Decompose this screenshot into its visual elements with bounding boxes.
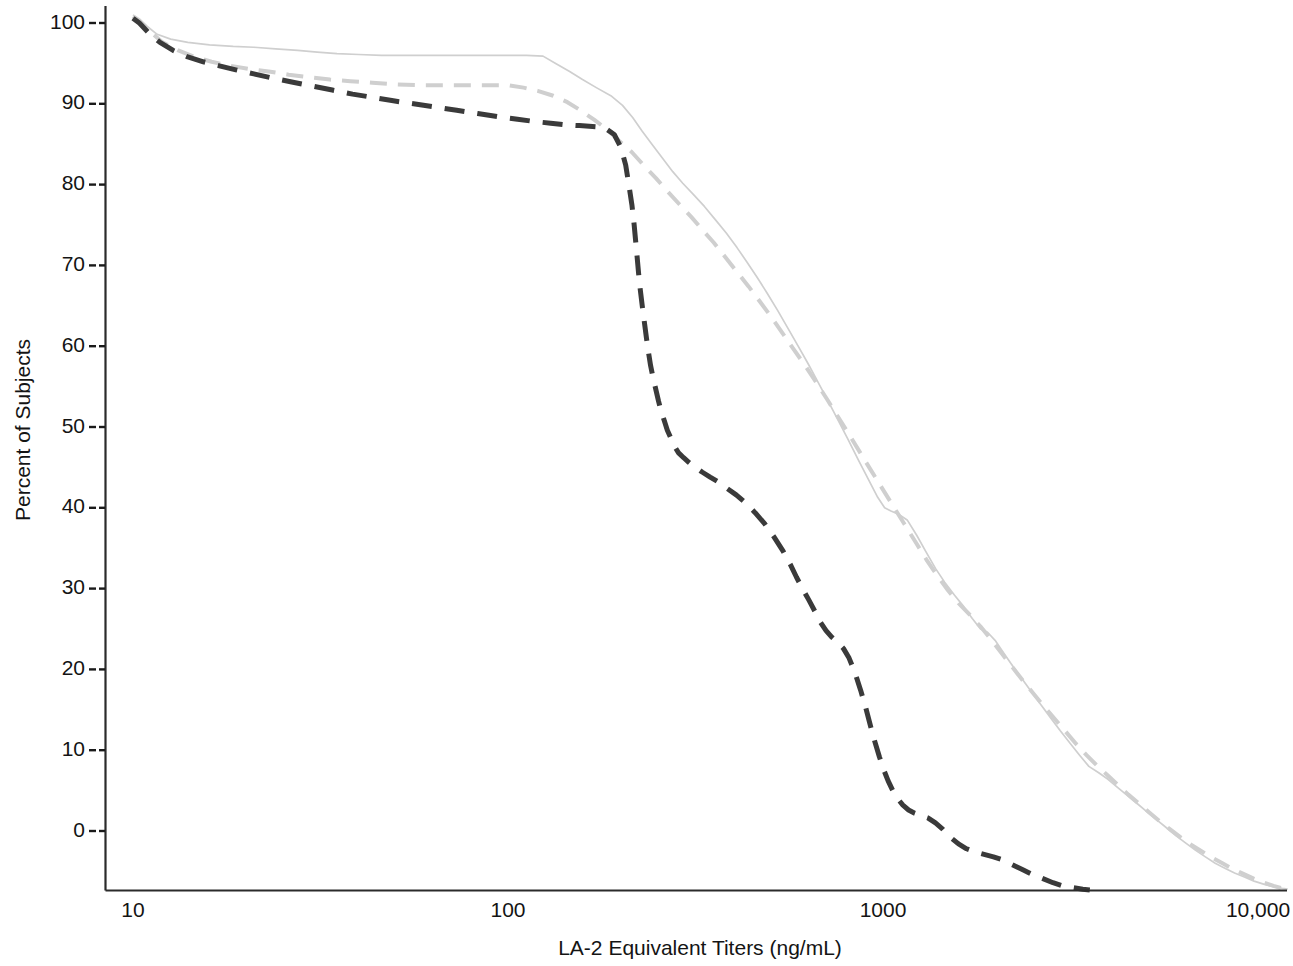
y-tick: 50 [62, 414, 105, 437]
y-tick: 40 [62, 494, 105, 517]
y-tick: 80 [62, 171, 105, 194]
x-tick-label: 1000 [860, 898, 907, 921]
series-line-1 [133, 15, 1288, 889]
axes-group [106, 6, 1288, 891]
y-tick-label: 30 [62, 575, 85, 598]
y-tick-label: 60 [62, 333, 85, 356]
series-group [133, 15, 1288, 890]
y-tick: 60 [62, 333, 105, 356]
y-tick-label: 50 [62, 414, 85, 437]
y-tick: 20 [62, 656, 105, 679]
series-line-2 [133, 17, 1288, 890]
y-tick-label: 0 [73, 818, 85, 841]
series-line-3 [133, 18, 1090, 890]
x-tick-group: 10100100010,000 [121, 898, 1290, 921]
y-tick-label: 80 [62, 171, 85, 194]
y-tick-label: 20 [62, 656, 85, 679]
y-tick-label: 90 [62, 90, 85, 113]
y-tick-label: 10 [62, 737, 85, 760]
y-tick: 10 [62, 737, 105, 760]
y-axis-title: Percent of Subjects [11, 339, 34, 521]
x-tick-label: 10 [121, 898, 144, 921]
y-tick-label: 70 [62, 252, 85, 275]
chart-svg: 1009080706050403020100 10100100010,000 L… [0, 0, 1293, 966]
x-tick-label: 10,000 [1226, 898, 1290, 921]
y-tick-label: 40 [62, 494, 85, 517]
y-tick-label: 100 [50, 10, 85, 33]
y-tick-group: 1009080706050403020100 [50, 10, 105, 841]
x-axis-title: LA-2 Equivalent Titers (ng/mL) [558, 936, 842, 959]
y-tick: 100 [50, 10, 105, 33]
y-tick: 0 [73, 818, 105, 841]
y-tick: 30 [62, 575, 105, 598]
y-tick: 90 [62, 90, 105, 113]
x-tick-label: 100 [490, 898, 525, 921]
y-tick: 70 [62, 252, 105, 275]
chart-figure: 1009080706050403020100 10100100010,000 L… [0, 0, 1293, 966]
